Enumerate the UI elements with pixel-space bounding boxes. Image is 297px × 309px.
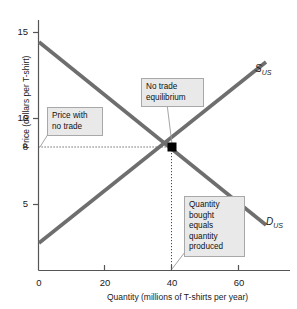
annotation-quantity-bought-equals-quantity-produced: Quantity bought equals quantity produced bbox=[184, 196, 245, 257]
supply-curve-label-subscript: US bbox=[262, 69, 272, 76]
x-tick-label-40: 40 bbox=[162, 277, 182, 288]
y-tick-label-5: 5 bbox=[8, 198, 28, 209]
x-tick-label-20: 20 bbox=[95, 277, 115, 288]
x-tick-label-60: 60 bbox=[229, 277, 249, 288]
x-axis-title: Quantity (millions of T-shirts per year) bbox=[107, 292, 248, 302]
demand-curve-label: DUS bbox=[266, 216, 283, 229]
annotation-price-with-no-trade: Price with no trade bbox=[47, 107, 103, 136]
supply-curve-label: SUS bbox=[255, 63, 271, 76]
equilibrium-point-marker bbox=[168, 143, 177, 152]
y-tick-label-15: 15 bbox=[8, 26, 28, 37]
supply-demand-chart: Price (dollars per T-shirt) Quantity (mi… bbox=[0, 0, 297, 309]
y-tick-label-10: 10 bbox=[8, 112, 28, 123]
y-tick-label-8: 8 bbox=[8, 141, 28, 152]
annotation-no-trade-equilibrium: No trade equilibrium bbox=[141, 78, 204, 107]
x-tick-label-0: 0 bbox=[29, 277, 49, 288]
plot-area bbox=[0, 0, 297, 309]
supply-curve-label-main: S bbox=[255, 63, 262, 74]
demand-curve-label-subscript: US bbox=[273, 222, 283, 229]
y-axis-title: Price (dollars per T-shirt) bbox=[21, 27, 31, 177]
